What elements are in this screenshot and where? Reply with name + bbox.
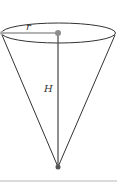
apex-dot	[56, 165, 61, 170]
radius-label: r	[26, 21, 32, 32]
edge-dot	[0, 31, 4, 35]
cone-right-side	[58, 35, 115, 167]
cone-left-side	[2, 35, 58, 167]
height-label: H	[43, 83, 53, 94]
cone-diagram: r H	[0, 0, 123, 186]
center-dot	[55, 30, 61, 36]
